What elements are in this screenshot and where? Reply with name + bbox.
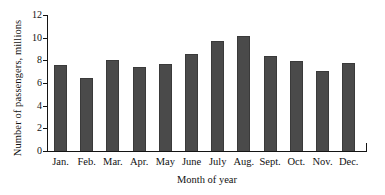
y-axis-tick-mark [43,60,48,61]
bar [237,36,250,151]
y-axis-title: Number of passengers, millions [11,8,25,168]
y-axis-tick-mark [43,106,48,107]
bar [316,71,329,151]
y-axis-tick-label: 0 [26,146,42,156]
y-axis-tick-mark [43,15,48,16]
x-axis-line [47,151,367,152]
y-axis-tick-label: 6 [26,78,42,88]
bar-chart-figure: Number of passengers, millions 024681012… [0,0,385,195]
y-axis-tick-label: 4 [26,101,42,111]
x-axis-tick-label: Dec. [329,156,369,168]
y-axis-tick-mark [43,83,48,84]
x-axis-title: Month of year [47,174,367,186]
bar [54,65,67,151]
bar [264,56,277,151]
bar [159,64,172,151]
bar [80,78,93,151]
plot-area [47,15,367,152]
bar [290,61,303,151]
y-axis-tick-mark [43,151,48,152]
x-axis-right-tick [366,143,367,152]
bar [106,60,119,151]
y-axis-tick-label: 10 [26,33,42,43]
y-axis-tick-label: 2 [26,123,42,133]
bar [211,41,224,151]
bar [185,54,198,151]
y-axis-tick-label: 8 [26,55,42,65]
bar [133,67,146,151]
y-axis-tick-mark [43,128,48,129]
y-axis-tick-label: 12 [26,10,42,20]
y-axis-tick-mark [43,38,48,39]
bar [342,63,355,151]
x-axis-tick-labels: Jan.Feb.Mar.Apr.MayJuneJulyAug.Sept.Oct.… [47,156,367,170]
